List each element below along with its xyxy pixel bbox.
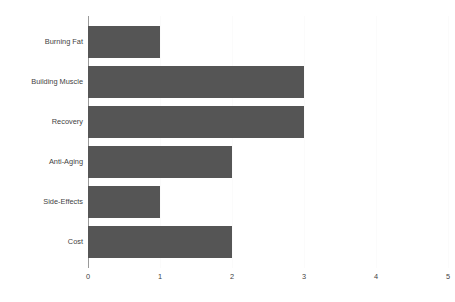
category-label: Burning Fat (0, 22, 83, 62)
bar[interactable] (88, 26, 160, 58)
bar-row (88, 222, 448, 262)
x-tick-label-3: 3 (289, 272, 319, 281)
bars-layer (88, 16, 448, 268)
x-tick-label-1: 1 (145, 272, 175, 281)
x-tick-label-0: 0 (73, 272, 103, 281)
category-label: Anti-Aging (0, 142, 83, 182)
bar[interactable] (88, 146, 232, 178)
bar[interactable] (88, 106, 304, 138)
bar-row (88, 22, 448, 62)
category-label: Cost (0, 222, 83, 262)
x-tick-label-2: 2 (217, 272, 247, 281)
gridline-x-5 (448, 16, 449, 268)
bar-row (88, 62, 448, 102)
bar[interactable] (88, 66, 304, 98)
x-tick-label-4: 4 (361, 272, 391, 281)
x-tick-label-5: 5 (433, 272, 455, 281)
bar-row (88, 102, 448, 142)
bar[interactable] (88, 226, 232, 258)
bar-row (88, 182, 448, 222)
category-label: Recovery (0, 102, 83, 142)
x-axis-tick-labels: 012345 (88, 272, 448, 286)
bar-row (88, 142, 448, 182)
category-label: Building Muscle (0, 62, 83, 102)
bar[interactable] (88, 186, 160, 218)
category-axis-labels: Burning FatBuilding MuscleRecoveryAnti-A… (0, 16, 83, 268)
category-label: Side-Effects (0, 182, 83, 222)
